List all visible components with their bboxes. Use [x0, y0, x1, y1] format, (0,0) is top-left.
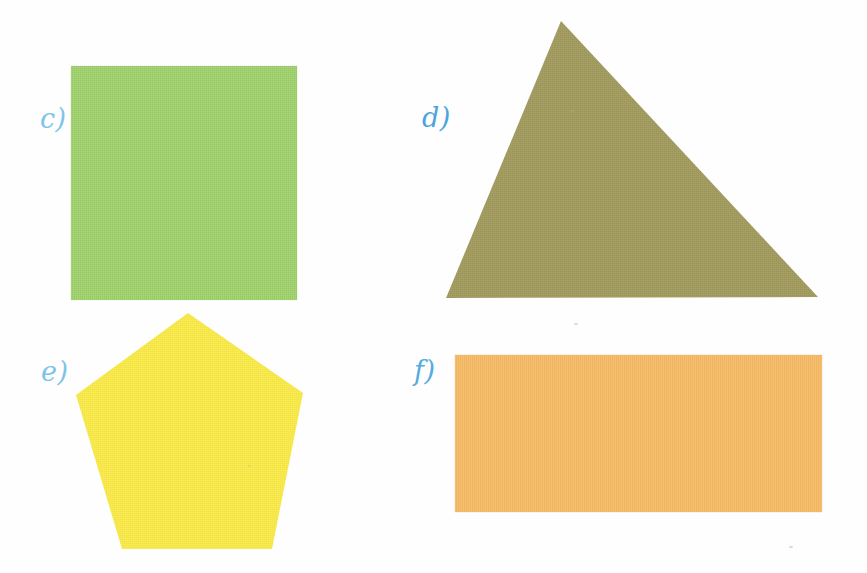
- pentagon-shape: [76, 313, 303, 549]
- shape-square-green: [71, 66, 297, 300]
- shape-label-c: c): [40, 105, 67, 132]
- square-fill: [71, 66, 297, 300]
- shape-label-e: e): [41, 358, 69, 385]
- paper-speck: [571, 110, 574, 112]
- shape-triangle-olive: [440, 14, 826, 304]
- shape-label-f: f): [414, 357, 436, 384]
- shape-rectangle-orange: [455, 355, 822, 512]
- rectangle-fill: [455, 355, 822, 512]
- paper-speck: [574, 323, 578, 325]
- pentagon-svg: [70, 308, 310, 556]
- paper-speck: [248, 465, 251, 467]
- triangle-shape: [446, 21, 818, 298]
- triangle-svg: [440, 14, 826, 304]
- shape-pentagon-yellow: [70, 308, 310, 556]
- paper-speck: [789, 546, 793, 548]
- worksheet-page: c) d) e): [0, 0, 867, 573]
